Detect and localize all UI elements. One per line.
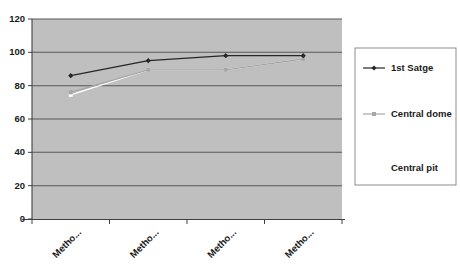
x-axis-tick-label: Metho...: [283, 227, 316, 260]
y-axis-tick-label: 40: [14, 146, 25, 157]
data-point-marker: [372, 112, 376, 116]
x-axis-tick-label: Metho...: [128, 227, 161, 260]
data-point-marker: [372, 166, 376, 170]
y-axis-tick-label: 120: [9, 13, 25, 24]
data-point-marker: [224, 68, 228, 72]
chart-container: 020406080100120 Metho...Metho...Metho...…: [0, 0, 460, 266]
x-axis-tick-labels: Metho...Metho...Metho...Metho...: [50, 227, 316, 260]
data-point-marker: [146, 68, 150, 72]
y-axis-tick-label: 60: [14, 113, 25, 124]
y-axis-tick-label: 0: [20, 213, 25, 224]
legend-entry-label: Central pit: [391, 162, 439, 173]
y-axis-tick-label: 80: [14, 80, 25, 91]
x-axis-tick-label: Metho...: [205, 227, 238, 260]
line-chart: 020406080100120 Metho...Metho...Metho...…: [0, 0, 460, 266]
x-axis-tick-label: Metho...: [50, 227, 83, 260]
legend-entry-label: 1st Satge: [391, 62, 433, 73]
data-point-marker: [69, 90, 73, 94]
legend-entry-label: Central dome: [391, 108, 452, 119]
y-axis-tick-label: 100: [9, 46, 25, 57]
y-axis-ticks: [28, 19, 32, 219]
y-axis-tick-labels: 020406080100120: [9, 13, 25, 224]
y-axis-tick-label: 20: [14, 180, 25, 191]
